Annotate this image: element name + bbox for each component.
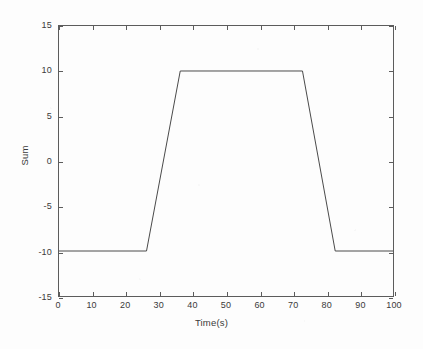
x-tick-label: 100 xyxy=(386,300,402,310)
y-tick-label: -5 xyxy=(44,201,52,211)
y-tick-mark xyxy=(389,298,393,299)
y-tick-label: 15 xyxy=(42,20,52,30)
x-tick-label: 40 xyxy=(187,300,197,310)
figure-canvas: Sum Time(s) 0102030405060708090100 -15-1… xyxy=(0,0,423,349)
x-tick-label: 30 xyxy=(154,300,164,310)
x-tick-label: 20 xyxy=(120,300,130,310)
y-tick-label: 5 xyxy=(47,111,52,121)
x-tick-label: 50 xyxy=(221,300,231,310)
x-tick-mark xyxy=(395,292,396,296)
x-tick-mark xyxy=(395,26,396,30)
x-tick-label: 80 xyxy=(322,300,332,310)
x-tick-label: 0 xyxy=(55,300,60,310)
y-axis-label: Sum xyxy=(19,126,30,186)
x-tick-label: 90 xyxy=(355,300,365,310)
y-tick-label: -15 xyxy=(38,292,52,302)
x-tick-label: 10 xyxy=(86,300,96,310)
y-tick-label: -10 xyxy=(38,247,52,257)
x-tick-label: 70 xyxy=(288,300,298,310)
y-tick-label: 10 xyxy=(42,65,52,75)
plot-area xyxy=(58,25,394,297)
y-tick-mark xyxy=(59,298,63,299)
x-axis-label: Time(s) xyxy=(0,317,423,328)
x-tick-label: 60 xyxy=(254,300,264,310)
y-tick-label: 0 xyxy=(47,156,52,166)
series-line-sum xyxy=(59,71,393,251)
data-series-layer xyxy=(59,26,393,296)
